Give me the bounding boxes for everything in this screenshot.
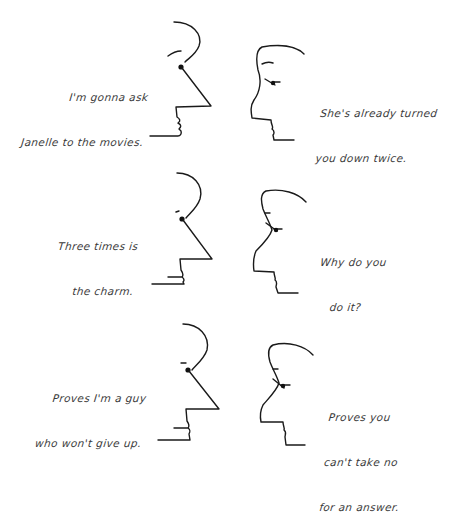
panel-2: Three times is the charm. Why do you do … xyxy=(0,155,461,310)
panel-1: I'm gonna ask Janelle to the movies. She… xyxy=(0,0,461,155)
right-speech-text: Proves you can't take no for an answer. xyxy=(315,380,452,516)
left-face-profile xyxy=(158,324,219,440)
right-eye xyxy=(281,384,285,388)
right-eye xyxy=(274,228,278,232)
panel-3: Proves I'm a guy who won't give up. Prov… xyxy=(0,310,461,467)
right-eye xyxy=(271,81,275,85)
left-face-profile xyxy=(150,22,211,136)
right-face-profile xyxy=(251,46,304,140)
right-face-profile xyxy=(260,344,313,445)
right-face-profile xyxy=(253,190,306,293)
left-face-profile xyxy=(152,173,212,284)
left-speech-text: Proves I'm a guy who won't give up. xyxy=(8,361,151,481)
